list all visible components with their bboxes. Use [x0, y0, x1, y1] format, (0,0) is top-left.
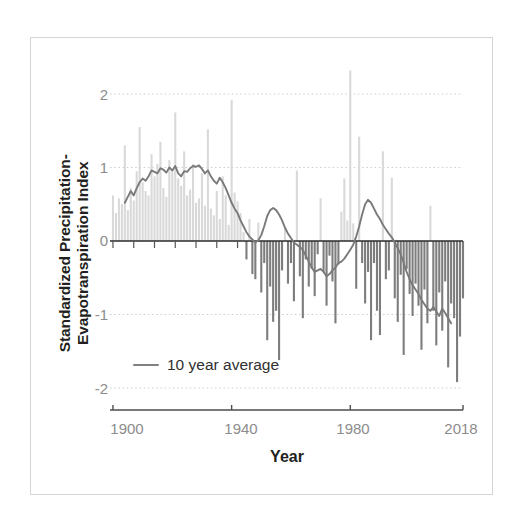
bar-1925 [186, 195, 188, 241]
bar-1993 [388, 241, 390, 270]
bar-1911 [145, 191, 147, 241]
bar-1982 [355, 241, 357, 289]
bar-1996 [397, 241, 399, 322]
bar-2010 [438, 241, 440, 292]
bar-1981 [352, 223, 354, 241]
bar-1959 [287, 241, 289, 284]
bar-1976 [337, 241, 339, 265]
bar-2016 [456, 241, 458, 382]
bar-1968 [314, 241, 316, 296]
bar-1984 [361, 241, 363, 263]
bar-1987 [370, 241, 372, 340]
bar-1934 [213, 215, 215, 241]
bar-2018 [462, 241, 464, 298]
bar-1942 [237, 201, 239, 241]
bar-1922 [177, 179, 179, 241]
legend: 10 year average [133, 356, 279, 374]
y-axis-title-line2: Evapotranspiration Index [74, 128, 92, 378]
y-axis-title: Standardized Precipitation- Evapotranspi… [56, 128, 93, 378]
legend-line-swatch [133, 364, 159, 367]
y-tick-label-neg2: -2 [80, 380, 108, 397]
bar-1955 [275, 241, 277, 311]
x-tick-label-1980: 1980 [323, 420, 383, 437]
bar-2004 [420, 241, 422, 350]
legend-label-ten-year-average: 10 year average [167, 356, 279, 374]
bar-2011 [441, 241, 443, 331]
bars-group [112, 70, 464, 382]
y-axis-title-line1: Standardized Precipitation- [56, 128, 74, 378]
bar-1941 [234, 192, 236, 241]
bar-1926 [189, 190, 191, 241]
bar-1954 [272, 241, 274, 322]
bar-1917 [162, 188, 164, 241]
bar-1939 [228, 225, 230, 241]
bar-1953 [269, 241, 271, 287]
bar-1904 [124, 145, 126, 241]
bar-1930 [201, 173, 203, 241]
bar-1907 [133, 201, 135, 241]
bar-1948 [254, 241, 256, 279]
bar-1933 [210, 209, 212, 241]
bar-1971 [323, 241, 325, 272]
bar-1947 [251, 241, 253, 274]
bar-1999 [406, 241, 408, 269]
bar-1972 [326, 241, 328, 306]
bar-1908 [136, 171, 138, 241]
bar-1912 [148, 195, 150, 241]
bar-2009 [435, 241, 437, 345]
bar-1936 [219, 219, 221, 241]
bar-1977 [340, 212, 342, 241]
bar-1944 [242, 232, 244, 241]
plot-area: 2 1 0 -1 -2 1900 1940 1980 2018 Standard… [0, 0, 513, 516]
x-tick-label-1900: 1900 [97, 420, 157, 437]
bar-1973 [328, 241, 330, 256]
bar-1979 [346, 220, 348, 241]
bar-1960 [290, 241, 292, 263]
bar-1928 [195, 203, 197, 241]
y-tick-label-2: 2 [80, 86, 108, 103]
x-tick-label-2018: 2018 [431, 420, 491, 437]
bar-1902 [118, 198, 120, 241]
bar-2014 [450, 241, 452, 303]
bar-1920 [171, 169, 173, 241]
bar-1916 [159, 142, 161, 241]
bar-2015 [453, 241, 455, 318]
bar-1931 [204, 206, 206, 241]
bar-1915 [156, 164, 158, 241]
bar-1980 [349, 70, 351, 241]
bar-1995 [394, 241, 396, 298]
bar-2006 [426, 241, 428, 323]
bar-1969 [317, 241, 319, 254]
bar-1919 [168, 160, 170, 241]
bar-1990 [379, 241, 381, 335]
bar-2000 [409, 241, 411, 294]
bar-1903 [121, 204, 123, 241]
bar-1906 [130, 188, 132, 241]
bar-1924 [183, 151, 185, 241]
bar-1945 [245, 241, 247, 259]
bar-1986 [367, 241, 369, 272]
bar-1994 [391, 178, 393, 241]
bar-1940 [231, 100, 233, 241]
bar-1989 [376, 241, 378, 311]
bar-1951 [263, 241, 265, 263]
bar-1978 [343, 179, 345, 241]
bar-1923 [180, 186, 182, 241]
bar-1918 [165, 197, 167, 241]
bar-1992 [385, 241, 387, 279]
bar-1937 [222, 176, 224, 241]
bar-1932 [207, 129, 209, 241]
bar-1975 [334, 241, 336, 323]
x-axis [110, 405, 463, 410]
bar-1929 [198, 198, 200, 241]
bar-1974 [331, 241, 333, 281]
bar-1913 [150, 154, 152, 241]
bar-2002 [414, 241, 416, 284]
bar-1914 [153, 176, 155, 241]
bar-2007 [429, 206, 431, 241]
bar-1957 [281, 241, 283, 270]
bar-1927 [192, 164, 194, 241]
bar-1956 [278, 241, 280, 360]
bar-2013 [447, 241, 449, 367]
bar-1988 [373, 241, 375, 263]
